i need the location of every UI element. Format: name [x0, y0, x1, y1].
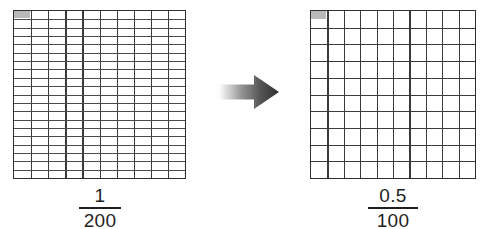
left-fraction-bar	[79, 207, 121, 209]
grid-line-horizontal	[311, 61, 475, 62]
left-grid-shaded-cell	[14, 11, 30, 18]
right-fraction-numerator: 0.5	[356, 186, 430, 206]
right-grid-panel: 0.5 100	[290, 0, 488, 229]
left-grid	[13, 10, 186, 179]
grid-line-horizontal	[14, 95, 185, 96]
figure-root: 1 200 0.5	[0, 0, 488, 229]
grid-line-horizontal	[14, 44, 185, 45]
grid-line-horizontal	[14, 53, 185, 54]
grid-line-horizontal	[14, 28, 185, 29]
grid-line-horizontal	[311, 78, 475, 79]
right-fraction-bar	[368, 207, 418, 209]
grid-line-horizontal	[14, 103, 185, 104]
right-grid-cells	[311, 11, 475, 178]
right-grid	[310, 10, 476, 179]
grid-line-horizontal	[14, 161, 185, 162]
grid-line-horizontal	[14, 153, 185, 154]
arrow-shape	[216, 75, 279, 109]
right-grid-shaded-cell	[311, 11, 326, 19]
grid-line-horizontal	[14, 136, 185, 137]
left-fraction-denominator: 200	[63, 210, 137, 229]
grid-line-horizontal	[311, 161, 475, 162]
arrow-right-icon	[214, 72, 282, 112]
grid-line-horizontal	[14, 86, 185, 87]
grid-line-horizontal	[14, 120, 185, 121]
right-fraction-label: 0.5 100	[356, 186, 430, 229]
grid-line-horizontal	[14, 128, 185, 129]
grid-line-horizontal	[14, 69, 185, 70]
grid-line-horizontal	[311, 44, 475, 45]
grid-line-horizontal	[311, 95, 475, 96]
left-grid-cells	[14, 11, 185, 178]
grid-line-horizontal	[14, 19, 185, 20]
grid-line-horizontal	[14, 145, 185, 146]
grid-line-horizontal	[311, 111, 475, 112]
grid-line-horizontal	[14, 78, 185, 79]
grid-line-horizontal	[14, 111, 185, 112]
transformation-arrow	[214, 72, 282, 112]
grid-line-horizontal	[14, 61, 185, 62]
grid-line-horizontal	[311, 145, 475, 146]
grid-line-horizontal	[14, 36, 185, 37]
grid-line-horizontal	[311, 28, 475, 29]
grid-line-horizontal	[311, 128, 475, 129]
left-grid-panel: 1 200	[0, 0, 200, 229]
right-fraction-denominator: 100	[356, 210, 430, 229]
left-fraction-numerator: 1	[63, 186, 137, 206]
grid-line-horizontal	[14, 170, 185, 171]
left-fraction-label: 1 200	[63, 186, 137, 229]
